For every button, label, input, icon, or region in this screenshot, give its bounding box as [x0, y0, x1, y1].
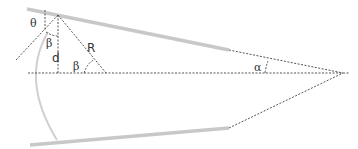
alpha-label: α — [254, 61, 262, 74]
beta-bottom-label: β — [73, 60, 79, 73]
upper-ray-dashed — [229, 50, 343, 73]
beta-arc-bottom — [84, 60, 94, 73]
beta-top-label: β — [46, 37, 52, 50]
lower-surface-line — [30, 128, 229, 145]
geometry-diagram: θ β d R β α — [0, 0, 358, 149]
R-label: R — [87, 41, 95, 55]
alpha-arc — [265, 61, 268, 73]
d-label: d — [52, 51, 60, 65]
theta-label: θ — [30, 17, 37, 30]
lower-ray-dashed — [229, 73, 343, 128]
